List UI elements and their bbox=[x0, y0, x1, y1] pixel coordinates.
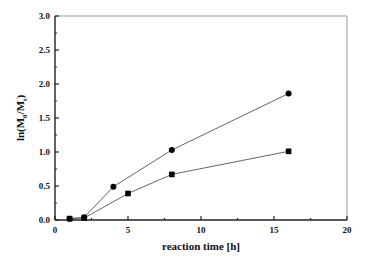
circle-data-point bbox=[286, 91, 292, 97]
y-tick-label: 0.5 bbox=[39, 181, 51, 191]
y-label-text: ) bbox=[14, 95, 27, 99]
x-tick-label: 5 bbox=[126, 225, 131, 235]
square-data-point bbox=[67, 216, 73, 222]
y-label-text: /M bbox=[14, 100, 26, 115]
square-series-line bbox=[70, 151, 289, 218]
x-tick-label: 15 bbox=[270, 225, 280, 235]
square-data-point bbox=[125, 191, 131, 197]
y-tick-label: 2.0 bbox=[39, 79, 51, 89]
x-axis-title: reaction time [h] bbox=[162, 240, 240, 252]
square-data-point bbox=[286, 149, 292, 155]
plot-frame bbox=[55, 16, 347, 220]
y-tick-label: 0.0 bbox=[39, 215, 51, 225]
y-tick-label: 1.0 bbox=[39, 147, 51, 157]
square-data-point bbox=[169, 172, 175, 178]
y-axis-title: ln(M0/Mt) bbox=[14, 95, 29, 142]
x-tick-label: 20 bbox=[343, 225, 353, 235]
x-tick-label: 0 bbox=[53, 225, 58, 235]
y-label-text: ln(M bbox=[14, 117, 27, 141]
circle-data-point bbox=[110, 184, 116, 190]
y-tick-label: 1.5 bbox=[39, 113, 51, 123]
y-tick-label: 2.5 bbox=[39, 45, 51, 55]
circle-series-line bbox=[70, 94, 289, 219]
square-data-point bbox=[81, 215, 87, 221]
x-tick-label: 10 bbox=[197, 225, 207, 235]
y-tick-label: 3.0 bbox=[39, 11, 51, 21]
circle-data-point bbox=[169, 147, 175, 153]
data-series bbox=[67, 91, 292, 222]
axis-ticks: 051015200.00.51.01.52.02.53.0 bbox=[39, 11, 352, 235]
chart: 051015200.00.51.01.52.02.53.0 reaction t… bbox=[0, 0, 369, 268]
